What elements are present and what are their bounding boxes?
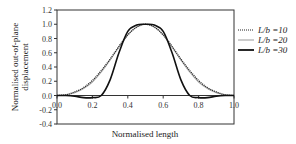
y-axis: -0.4-0.20.00.20.40.60.81.01.2 xyxy=(39,6,57,129)
y-tick-label: 0.8 xyxy=(42,35,52,44)
x-tick-label: 0.6 xyxy=(158,101,168,110)
legend-label-lb30: L/b =30 xyxy=(257,45,288,55)
legend-label-lb20: L/b =20 xyxy=(257,35,288,45)
x-tick-label: 0.4 xyxy=(123,101,133,110)
y-tick-label: 0.4 xyxy=(42,63,52,72)
legend: L/b =10 L/b =20 L/b =30 xyxy=(238,25,288,55)
x-tick-label: 0.2 xyxy=(87,101,97,110)
series-group xyxy=(57,24,234,98)
y-tick-label: 1.2 xyxy=(42,6,52,15)
y-tick-label: 1.0 xyxy=(42,20,52,29)
y-tick-label: 0.6 xyxy=(42,49,52,58)
series-line-l-b-20 xyxy=(57,24,234,95)
y-tick-label: -0.4 xyxy=(39,120,52,129)
legend-label-lb10: L/b =10 xyxy=(257,25,288,35)
x-tick-label: 1.0 xyxy=(229,101,239,110)
x-tick-label: 0.8 xyxy=(194,101,204,110)
series-line-l-b-30 xyxy=(57,24,234,98)
plot-frame xyxy=(57,10,234,124)
series-line-l-b-10 xyxy=(57,24,234,95)
y-axis-label-line1: Normalised out-of-plane xyxy=(10,23,20,112)
y-tick-label: -0.2 xyxy=(39,106,52,115)
y-tick-label: 0.2 xyxy=(42,77,52,86)
chart: -0.4-0.20.00.20.40.60.81.01.2 0.00.20.40… xyxy=(0,0,296,144)
y-axis-label-line2: displacement xyxy=(20,43,30,91)
x-axis-label: Normalised length xyxy=(112,129,179,139)
x-tick-label: 0.0 xyxy=(52,101,62,110)
y-tick-label: 0.0 xyxy=(42,92,52,101)
